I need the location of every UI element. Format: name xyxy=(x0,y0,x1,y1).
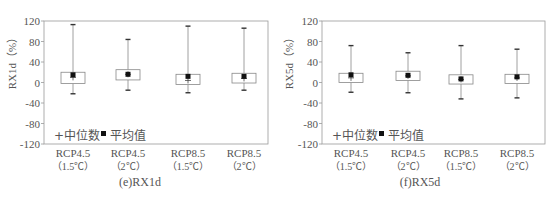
caption-rx1d: (e)RX1d xyxy=(0,175,280,190)
y-tick-label: 0 xyxy=(35,77,41,89)
y-tick-label: -80 xyxy=(303,118,318,130)
x-category-sublabel: （1.5℃） xyxy=(440,161,483,172)
box-2 xyxy=(116,39,140,90)
x-category-label: RCP4.5 xyxy=(111,147,146,159)
x-category-label: RCP4.5 xyxy=(391,147,426,159)
y-tick-label: 120 xyxy=(24,15,41,27)
y-tick-label: -120 xyxy=(298,138,319,150)
box-4 xyxy=(232,28,256,90)
y-tick-label: -120 xyxy=(20,138,41,150)
x-category-sublabel: （1.5℃） xyxy=(52,161,95,172)
mean-square-icon xyxy=(515,74,520,79)
box-1 xyxy=(339,46,363,93)
box-1 xyxy=(61,25,85,94)
x-category-label: RCP8.5 xyxy=(500,147,535,159)
box-2 xyxy=(396,53,420,93)
legend-median: +中位数 xyxy=(54,128,100,143)
x-category-label: RCP8.5 xyxy=(227,147,262,159)
legend: +中位数平均值 xyxy=(332,128,424,143)
caption-rx5d: (f)RX5d xyxy=(280,175,559,190)
mean-square-icon xyxy=(406,73,411,78)
box-3 xyxy=(449,46,473,99)
panel-rx5d: -120-80-4004080120RX5d（%）RCP4.5（1.5℃）RCP… xyxy=(280,0,559,202)
boxplot-rx1d: -120-80-4004080120RX1d（%）RCP4.5（1.5℃）RCP… xyxy=(0,0,280,202)
legend-mean-square-icon xyxy=(101,131,106,136)
x-category-label: RCP4.5 xyxy=(56,147,91,159)
mean-square-icon xyxy=(126,72,131,77)
x-category-label: RCP8.5 xyxy=(171,147,206,159)
box-4 xyxy=(505,49,529,98)
box-3 xyxy=(176,26,200,93)
x-category-sublabel: （2℃） xyxy=(391,161,426,172)
y-tick-label: 40 xyxy=(307,56,319,68)
boxplot-rx5d: -120-80-4004080120RX5d（%）RCP4.5（1.5℃）RCP… xyxy=(280,0,559,202)
mean-square-icon xyxy=(71,72,76,77)
y-tick-label: -40 xyxy=(303,97,318,109)
x-category-sublabel: （1.5℃） xyxy=(167,161,210,172)
legend-median: +中位数 xyxy=(332,128,378,143)
legend: +中位数平均值 xyxy=(54,128,146,143)
x-category-sublabel: （1.5℃） xyxy=(330,161,373,172)
mean-square-icon xyxy=(242,74,247,79)
y-tick-label: 0 xyxy=(313,77,319,89)
legend-mean: 平均值 xyxy=(388,128,424,143)
y-tick-label: 120 xyxy=(302,15,319,27)
mean-square-icon xyxy=(349,72,354,77)
panel-rx1d: -120-80-4004080120RX1d（%）RCP4.5（1.5℃）RCP… xyxy=(0,0,280,202)
x-category-sublabel: （2℃） xyxy=(111,161,146,172)
x-category-sublabel: （2℃） xyxy=(500,161,535,172)
y-tick-label: 40 xyxy=(29,56,41,68)
mean-square-icon xyxy=(186,74,191,79)
y-axis-label: RX5d（%） xyxy=(283,32,295,89)
y-tick-label: 80 xyxy=(29,36,41,48)
y-axis-label: RX1d（%） xyxy=(6,32,18,89)
y-tick-label: -80 xyxy=(25,118,40,130)
x-category-label: RCP8.5 xyxy=(444,147,479,159)
x-category-label: RCP4.5 xyxy=(334,147,369,159)
legend-mean-square-icon xyxy=(379,131,384,136)
legend-mean: 平均值 xyxy=(110,128,146,143)
y-tick-label: 80 xyxy=(307,36,319,48)
mean-square-icon xyxy=(459,76,464,81)
x-category-sublabel: （2℃） xyxy=(227,161,262,172)
y-tick-label: -40 xyxy=(25,97,40,109)
